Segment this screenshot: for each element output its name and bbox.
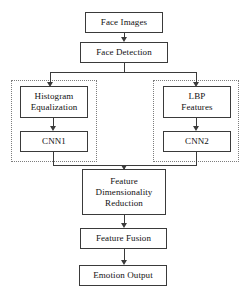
node-feature-fusion[interactable]: Feature Fusion [80, 228, 167, 249]
node-feature-fusion-label: Feature Fusion [94, 233, 153, 244]
arrowhead-cnn2 [193, 126, 199, 131]
flowchart-canvas: Face Images Face Detection Histogram Equ… [0, 0, 244, 293]
node-face-images-label: Face Images [99, 17, 149, 28]
node-face-detection[interactable]: Face Detection [80, 42, 168, 63]
arrowhead-face-detection [121, 37, 127, 42]
edge-branch-bus [50, 72, 196, 73]
node-histogram-equalization-label: Histogram Equalization [29, 91, 80, 113]
node-lbp-features-label: LBP Features [179, 91, 214, 113]
arrowhead-emotion-output [121, 260, 127, 265]
node-emotion-output-label: Emotion Output [91, 270, 155, 281]
arrowhead-histogram-equalization [47, 82, 53, 87]
edge-cnn1-drop [53, 151, 54, 165]
arrowhead-feature-fusion [121, 223, 127, 228]
arrowhead-lbp-features [193, 82, 199, 87]
node-feature-dimensionality-reduction[interactable]: Feature Dimensionality Reduction [82, 169, 166, 215]
arrowhead-feature-dimensionality-reduction [121, 165, 127, 170]
node-face-detection-label: Face Detection [94, 47, 154, 58]
node-cnn1-label: CNN1 [40, 136, 68, 147]
node-emotion-output[interactable]: Emotion Output [79, 265, 167, 286]
node-feature-dimensionality-reduction-label: Feature Dimensionality Reduction [94, 176, 155, 209]
node-cnn1[interactable]: CNN1 [20, 131, 88, 152]
edge-face-detection-stem [124, 62, 125, 72]
arrowhead-cnn1 [50, 126, 56, 131]
node-cnn2-label: CNN2 [183, 136, 211, 147]
node-histogram-equalization[interactable]: Histogram Equalization [20, 86, 88, 118]
node-cnn2[interactable]: CNN2 [163, 131, 231, 152]
edge-cnn2-drop [196, 151, 197, 165]
node-face-images[interactable]: Face Images [85, 12, 163, 33]
node-lbp-features[interactable]: LBP Features [163, 86, 231, 118]
